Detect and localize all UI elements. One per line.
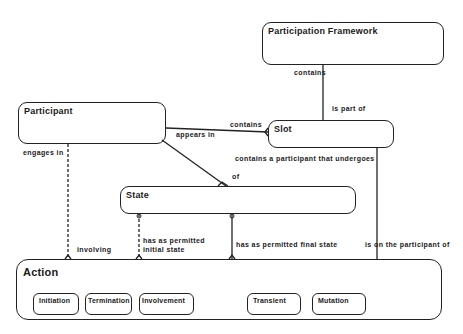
entity-title: Slot	[274, 124, 292, 134]
subtype-involvement[interactable]: Involvement	[139, 293, 194, 315]
rel-label-is-part-of: is part of	[332, 104, 366, 113]
participant-state-connector	[162, 140, 226, 186]
subtype-label: Transient	[253, 297, 286, 304]
subtype-termination[interactable]: Termination	[85, 293, 132, 315]
entity-participant[interactable]: Participant	[18, 102, 166, 144]
entity-participation-framework[interactable]: Participation Framework	[262, 22, 444, 65]
entity-slot[interactable]: Slot	[268, 120, 394, 148]
subtype-label: Initiation	[39, 297, 70, 304]
rel-label-of: of	[232, 172, 239, 181]
entity-title: State	[126, 190, 149, 200]
rel-label-slot-contains: contains	[230, 120, 262, 129]
subtype-label: Involvement	[142, 297, 185, 304]
entity-state[interactable]: State	[120, 186, 356, 214]
rel-label-initial-state-1: has as permitted	[143, 236, 205, 245]
subtype-mutation[interactable]: Mutation	[312, 293, 366, 315]
rel-label-final-state: has as permitted final state	[236, 240, 337, 249]
rel-label-pf-contains: contains	[294, 68, 326, 77]
entity-title: Action	[23, 266, 58, 278]
rel-label-involving: involving	[77, 245, 111, 254]
entity-title: Participation Framework	[268, 26, 378, 36]
entity-action[interactable]: Action Initiation Termination Involvemen…	[16, 259, 442, 320]
rel-label-engages-in: engages in	[23, 148, 64, 157]
entity-title: Participant	[24, 106, 73, 116]
subtype-label: Termination	[88, 297, 130, 304]
rel-label-initial-state-2: initial state	[143, 245, 185, 254]
subtype-initiation[interactable]: Initiation	[33, 293, 79, 315]
rel-label-appears-in: appears in	[176, 130, 215, 139]
rel-label-contains-participant: contains a participant that undergoes	[235, 154, 375, 163]
rel-label-on-participant-of: is on the participant of	[365, 240, 450, 249]
subtype-transient[interactable]: Transient	[247, 293, 301, 315]
subtype-label: Mutation	[318, 297, 349, 304]
er-diagram: Participation Framework Participant Slot…	[0, 0, 463, 334]
